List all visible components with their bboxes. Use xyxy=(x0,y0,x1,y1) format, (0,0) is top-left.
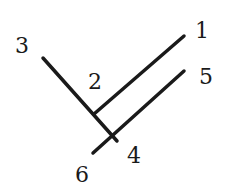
line-6-5 xyxy=(93,71,184,153)
label-1: 1 xyxy=(195,20,209,42)
line-3-4 xyxy=(43,58,117,141)
diagram-canvas: 1 2 3 4 5 6 xyxy=(0,0,225,194)
label-5: 5 xyxy=(199,66,213,88)
label-4: 4 xyxy=(127,145,141,167)
label-2: 2 xyxy=(88,71,102,93)
diagram-lines xyxy=(0,0,225,194)
label-6: 6 xyxy=(75,164,89,186)
label-3: 3 xyxy=(15,35,29,57)
line-2-1 xyxy=(94,36,184,114)
